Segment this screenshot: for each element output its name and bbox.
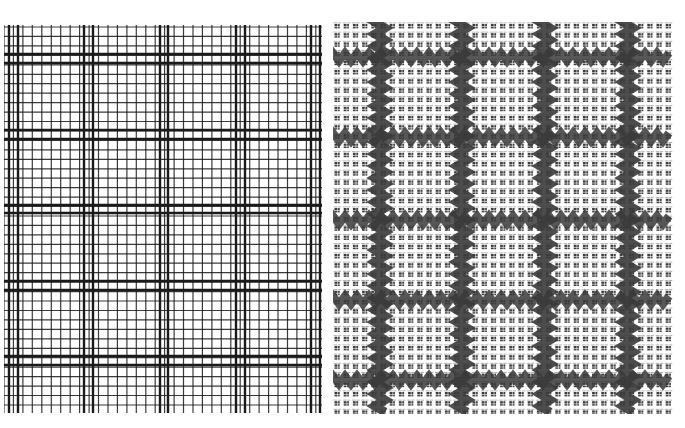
weave-texture: [333, 22, 673, 414]
graph-paper-grid: [4, 25, 322, 413]
woven-fabric-pattern: [333, 22, 673, 414]
grid-lines: [4, 25, 322, 413]
